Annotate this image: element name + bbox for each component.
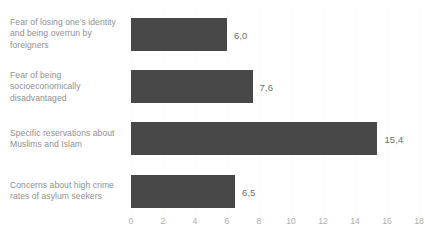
bar-value-label: 6,5	[242, 186, 256, 197]
category-label-identity-fear: Fear of losing one’s identity and being …	[10, 17, 122, 51]
x-tick-label: 4	[193, 216, 198, 226]
category-axis: Fear of losing one’s identity and being …	[10, 8, 122, 212]
gridline-18	[419, 8, 420, 212]
gridline-10	[291, 8, 292, 212]
gridline-14	[355, 8, 356, 212]
bar-value-label: 15,4	[384, 133, 403, 144]
category-label-crime-concerns: Concerns about high crime rates of asylu…	[10, 180, 122, 203]
category-label-socioeconomic-fear: Fear of being socioeconomically disadvan…	[10, 70, 122, 104]
bar-muslim-reservations[interactable]	[131, 122, 377, 155]
bar-value-label: 6,0	[234, 29, 248, 40]
x-tick-label: 12	[318, 216, 328, 226]
bar-identity-fear[interactable]	[131, 18, 227, 51]
gridline-12	[323, 8, 324, 212]
category-label-muslim-reservations: Specific reservations about Muslims and …	[10, 128, 122, 151]
bar-value-label: 7,6	[260, 81, 274, 92]
bar-chart: 6,0 7,6 15,4 6,5 Fear of losing one’s id…	[0, 0, 425, 247]
gridline-16	[387, 8, 388, 212]
x-tick-label: 10	[286, 216, 296, 226]
bar-crime-concerns[interactable]	[131, 175, 235, 208]
bar-socioeconomic-fear[interactable]	[131, 70, 253, 103]
x-axis: 0 2 4 6 8 10 12 14 16 18	[131, 216, 419, 232]
x-tick-label: 18	[414, 216, 424, 226]
x-tick-label: 14	[350, 216, 360, 226]
x-tick-label: 0	[129, 216, 134, 226]
gridline-8	[259, 8, 260, 212]
x-tick-label: 2	[161, 216, 166, 226]
x-tick-label: 16	[382, 216, 392, 226]
x-tick-label: 6	[225, 216, 230, 226]
plot-area: 6,0 7,6 15,4 6,5	[131, 8, 419, 212]
x-tick-label: 8	[257, 216, 262, 226]
